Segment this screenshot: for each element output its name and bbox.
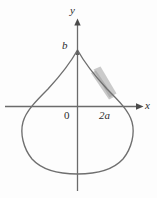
x-axis-arrow-icon [136,103,144,110]
x-tick-label-2a: 2a [99,110,110,121]
y-axis-arrow-icon [74,19,80,26]
figure-canvas [0,0,157,198]
y-intercept-label: b [62,40,68,51]
y-axis [74,19,80,192]
math-figure: y x b 0 2a [0,0,157,198]
origin-label: 0 [64,110,70,121]
y-axis-label: y [70,5,75,16]
x-axis-label: x [145,100,150,111]
